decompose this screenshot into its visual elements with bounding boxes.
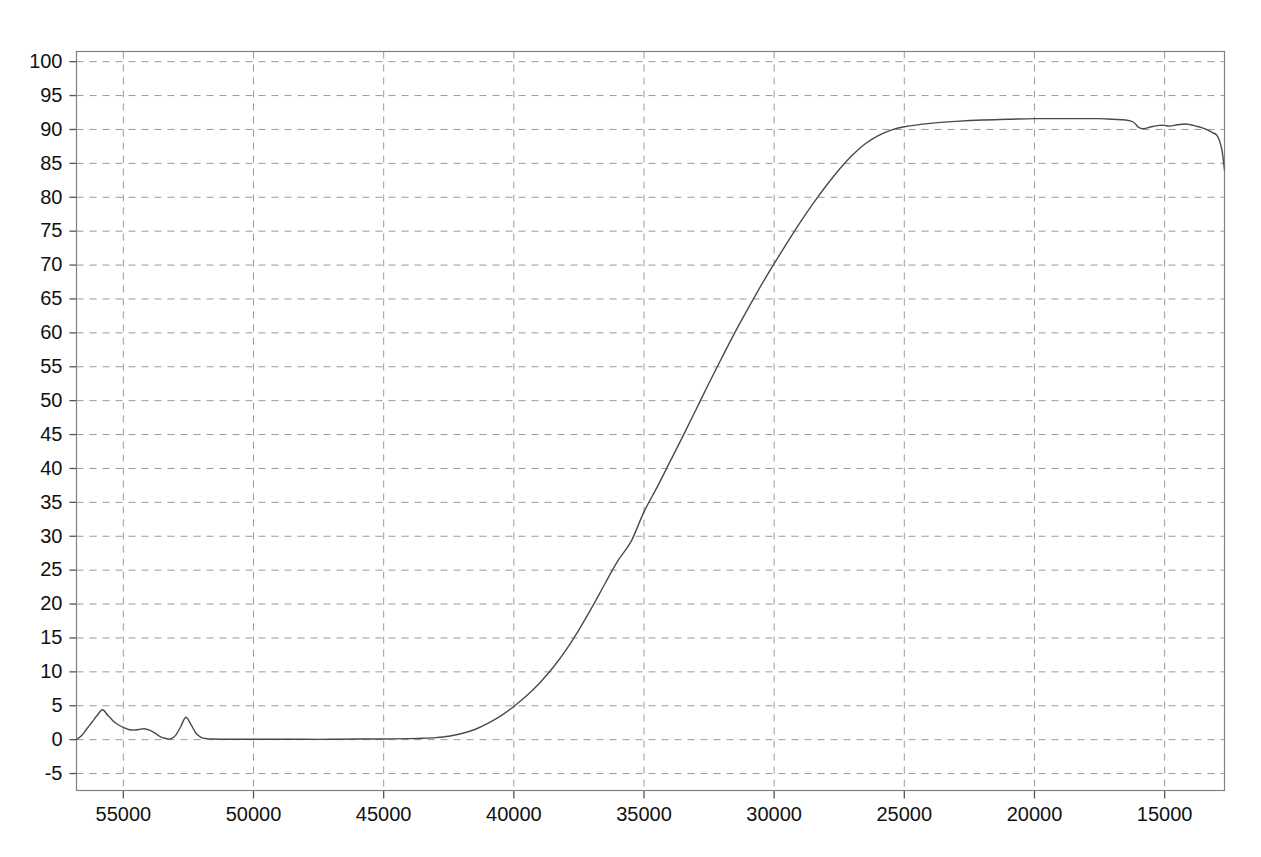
chart-container: -505101520253035404550556065707580859095… xyxy=(0,0,1261,857)
x-axis-tick-label: 25000 xyxy=(876,803,932,825)
y-axis-tick-label: 45 xyxy=(40,423,62,445)
x-axis-tick-label: 40000 xyxy=(486,803,542,825)
x-axis-tick-label: 15000 xyxy=(1137,803,1193,825)
y-axis-tick-label: 60 xyxy=(40,321,62,343)
y-axis-tick-label: 85 xyxy=(40,152,62,174)
y-axis-tick-label: -5 xyxy=(45,762,63,784)
y-axis-tick-label: 35 xyxy=(40,491,62,513)
x-axis-tick-label: 45000 xyxy=(356,803,412,825)
y-axis-tick-label: 70 xyxy=(40,253,62,275)
y-axis-tick-label: 40 xyxy=(40,457,62,479)
transmittance-line-chart: -505101520253035404550556065707580859095… xyxy=(0,0,1261,857)
y-axis-tick-label: 55 xyxy=(40,355,62,377)
y-axis-tick-label: 5 xyxy=(51,694,62,716)
x-axis-tick-label: 30000 xyxy=(746,803,802,825)
y-axis-tick-label: 10 xyxy=(40,660,62,682)
y-axis-tick-label: 100 xyxy=(29,50,62,72)
y-axis-tick-label: 25 xyxy=(40,558,62,580)
x-axis-tick-label: 50000 xyxy=(226,803,282,825)
y-axis-tick-label: 0 xyxy=(51,728,62,750)
y-axis-tick-label: 90 xyxy=(40,118,62,140)
y-axis-tick-label: 75 xyxy=(40,219,62,241)
x-axis-tick-label: 55000 xyxy=(96,803,152,825)
chart-background xyxy=(0,0,1261,857)
y-axis-tick-label: 95 xyxy=(40,84,62,106)
y-axis-tick-label: 30 xyxy=(40,525,62,547)
y-axis-tick-label: 15 xyxy=(40,626,62,648)
y-axis-tick-label: 80 xyxy=(40,186,62,208)
y-axis-tick-label: 20 xyxy=(40,592,62,614)
y-axis-tick-label: 50 xyxy=(40,389,62,411)
x-axis-tick-labels: 5500050000450004000035000300002500020000… xyxy=(96,803,1193,825)
y-axis-tick-label: 65 xyxy=(40,287,62,309)
x-axis-tick-label: 35000 xyxy=(616,803,672,825)
x-axis-tick-label: 20000 xyxy=(1007,803,1063,825)
